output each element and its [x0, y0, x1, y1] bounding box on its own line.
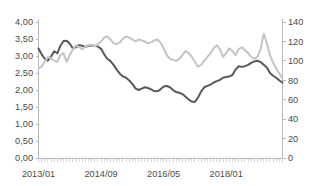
left-axis-tick-label: 2,00 [15, 85, 33, 95]
left-axis-tick-label: 2,50 [15, 68, 33, 78]
right-axis-tick-label: 0 [288, 153, 293, 163]
x-axis-tick-label: 2018/01 [210, 169, 243, 179]
left-axis-tick-label: 4,00 [15, 17, 33, 27]
x-axis-group: 2013/012014/092016/052018/01 [22, 158, 283, 179]
left-axis-tick-label: 3,00 [15, 51, 33, 61]
left-axis-tick-label: 3,50 [15, 34, 33, 44]
right-axis-tick-label: 60 [288, 95, 298, 105]
left-axis-tick-label: 0,00 [15, 153, 33, 163]
right-axis-tick-label: 80 [288, 76, 298, 86]
left-axis-tick-label: 0,50 [15, 136, 33, 146]
x-axis-tick-label: 2014/09 [84, 169, 117, 179]
x-axis-tick-label: 2013/01 [22, 169, 55, 179]
right-axis-tick-label: 140 [288, 17, 303, 27]
chart-canvas: 0,000,501,001,502,002,503,003,504,00 020… [0, 0, 316, 186]
right-axis-tick-label: 100 [288, 56, 303, 66]
left-axis-tick-label: 1,50 [15, 102, 33, 112]
series-line-light-series [39, 34, 283, 79]
left-axis-group: 0,000,501,001,502,002,503,003,504,00 [15, 17, 38, 163]
left-axis-tick-label: 1,00 [15, 119, 33, 129]
line-chart: 0,000,501,001,502,002,503,003,504,00 020… [0, 0, 316, 186]
right-axis-group: 020406080100120140 [283, 17, 304, 163]
right-axis-tick-label: 20 [288, 134, 298, 144]
right-axis-tick-label: 40 [288, 114, 298, 124]
series-group [39, 34, 283, 102]
x-axis-tick-label: 2016/05 [147, 169, 180, 179]
right-axis-tick-label: 120 [288, 37, 303, 47]
